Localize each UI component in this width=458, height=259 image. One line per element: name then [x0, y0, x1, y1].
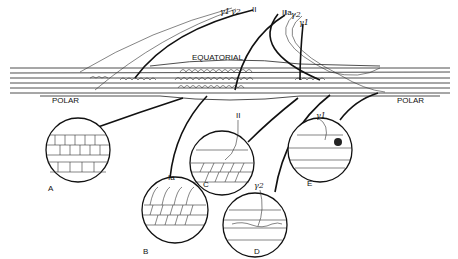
- label-polar-right: POLAR: [397, 96, 424, 105]
- spindle-fibers: [10, 60, 450, 100]
- label-gamma1-right: γ1: [299, 18, 309, 27]
- label-equatorial: EQUATORIAL: [192, 53, 243, 62]
- inset-D-fiber-label: γ2: [254, 181, 264, 190]
- inset-B-fiber-label: Ia: [168, 173, 175, 182]
- inset-A: A: [46, 118, 110, 193]
- inset-B-label: B: [143, 247, 148, 256]
- inset-E-label: E: [307, 179, 312, 188]
- inset-C: II C: [190, 111, 254, 195]
- label-gamma2-left: γ2: [231, 7, 241, 16]
- label-polar-left: POLAR: [52, 96, 79, 105]
- inset-C-fiber-label: II: [236, 111, 240, 120]
- muscle-spindle-diagram: γ1 γ2 II Ia II γ2 γ1 EQUATORIAL POLAR PO…: [0, 0, 458, 259]
- inset-B: Ia B: [142, 173, 208, 256]
- inset-A-label: A: [48, 184, 54, 193]
- inset-E-fiber-label: γ1: [316, 111, 326, 120]
- inset-D-label: D: [254, 247, 260, 256]
- inset-E: γ1 E: [288, 111, 352, 188]
- label-gamma1-left: γ1: [220, 7, 230, 16]
- inset-C-label: C: [203, 180, 209, 189]
- label-II-left: II: [252, 5, 256, 14]
- label-II-right: II: [282, 8, 286, 17]
